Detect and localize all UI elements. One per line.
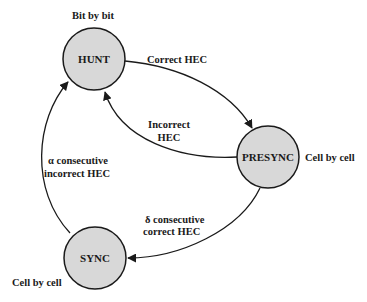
state-diagram: HUNT PRESYNC SYNC Bit by bit Cell by cel… [0,0,367,302]
label-delta-line2: correct HEC [143,226,200,237]
state-presync-label: PRESYNC [242,151,294,163]
label-incorrect-hec-line2: HEC [158,132,181,143]
hunt-annotation: Bit by bit [72,10,115,21]
label-incorrect-hec-line1: Incorrect [148,119,190,130]
label-alpha-line1: α consecutive [48,155,108,166]
state-sync: SYNC [64,227,126,289]
label-alpha-line2: incorrect HEC [44,168,110,179]
state-hunt-label: HUNT [78,53,110,65]
edge-hunt-to-presync [125,61,252,128]
state-presync: PRESYNC [237,126,299,188]
presync-annotation: Cell by cell [305,152,355,163]
sync-annotation: Cell by cell [12,277,62,288]
state-hunt: HUNT [63,28,125,90]
label-correct-hec: Correct HEC [147,54,207,65]
label-delta-line1: δ consecutive [145,214,205,225]
state-sync-label: SYNC [80,252,110,264]
